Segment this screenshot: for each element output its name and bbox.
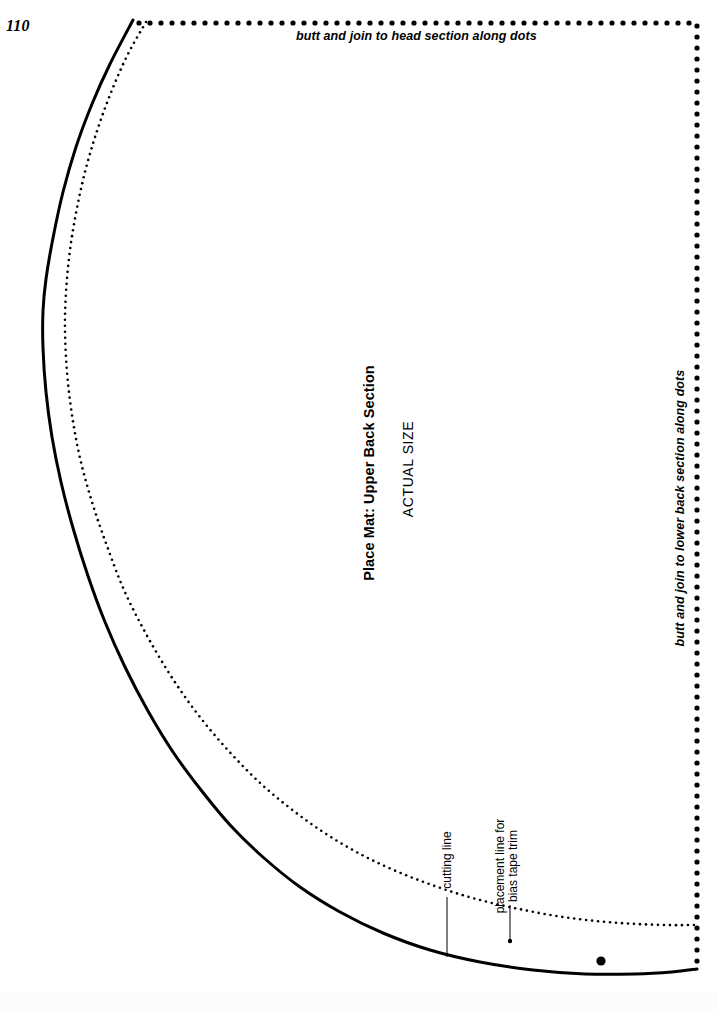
bias-tape-placement-curve (64, 21, 696, 927)
bias-tape-placement-label: placement line forbias tape trim (494, 819, 520, 914)
bias-tape-label-line-1: placement line for (493, 819, 507, 914)
pattern-drawing (0, 0, 718, 1010)
join-edge-dotted-border (136, 20, 699, 963)
join-instruction-top: butt and join to head section along dots (296, 30, 537, 44)
page-title: Place Mat: Upper Back Section (362, 365, 378, 581)
join-instruction-right: butt and join to lower back section alon… (674, 370, 688, 647)
reference-dot-markers (508, 939, 606, 966)
scale-note: ACTUAL SIZE (401, 421, 416, 517)
scan-artifact-band (0, 992, 718, 1010)
cutting-line-label: cutting line (441, 831, 454, 888)
pattern-page: 110 butt and join to head section along … (0, 0, 718, 1010)
bias-tape-label-line-2: bias tape trim (507, 819, 520, 914)
